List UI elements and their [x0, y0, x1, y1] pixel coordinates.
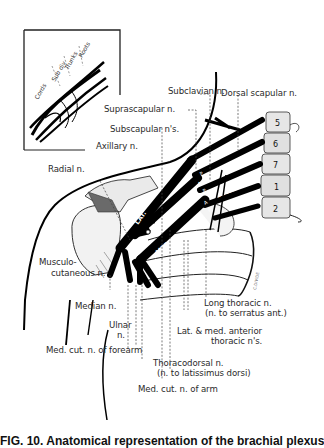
- label-axillary-nerve: Axillary n.: [96, 141, 138, 151]
- division-mark: A: [194, 162, 200, 169]
- inset-label-roots: Roots: [77, 41, 91, 59]
- label-med-cut-forearm: Med. cut. n. of forearm: [46, 345, 142, 355]
- label-long-thoracic-line2: (n. to serratus ant.): [205, 308, 287, 318]
- label-long-thoracic-line1: Long thoracic n.: [204, 298, 272, 308]
- vertebra-label: 5: [275, 119, 280, 128]
- label-thoracodorsal-line2: (n. to latissimus dorsi): [157, 368, 250, 378]
- label-ulnar-line1: Ulnar: [109, 320, 131, 330]
- label-thoracodorsal-line1: Thoracodorsal n.: [153, 358, 223, 368]
- label-suprascapular-nerve: Suprascapular n.: [104, 104, 175, 114]
- rib-mark: C.DIVIDE: [252, 271, 260, 290]
- forearm-line-2: [103, 330, 108, 420]
- label-subclavian-nerve: Subclavian n.: [168, 86, 225, 96]
- vertebra-label: 1: [274, 183, 279, 192]
- inset-label-trunks: Trunks: [62, 50, 78, 71]
- plexus-cords: LAT. POST. MED. A P A P A P: [110, 160, 226, 285]
- label-dorsal-scapular-nerve: Dorsal scapular n.: [221, 88, 297, 98]
- vertebral-column: 5 6 7 1 2: [261, 112, 301, 222]
- vertebra-label: 7: [273, 161, 278, 170]
- vertebra-label: 2: [273, 205, 278, 214]
- label-median-nerve: Median n.: [75, 301, 116, 311]
- label-ulnar-line2: n.: [117, 330, 125, 340]
- label-musculocutaneous-line1: Musculo-: [39, 257, 77, 267]
- inset-diagram: Cords Sub div Trunks Roots: [24, 30, 120, 150]
- label-ant-thoracic-line1: Lat. & med. anterior: [177, 326, 262, 336]
- label-subscapular-nerves: Subscapular n's.: [110, 124, 179, 134]
- vertebra-label: 6: [273, 140, 278, 149]
- label-med-cut-arm: Med. cut. n. of arm: [138, 384, 218, 394]
- arm-outline: [66, 300, 70, 345]
- label-musculocutaneous-line2: cutaneous n.: [51, 268, 105, 278]
- inset-label-cords: Cords: [33, 82, 48, 100]
- figure-caption: FIG. 10. Anatomical representation of th…: [0, 434, 324, 448]
- division-mark: A: [197, 180, 203, 187]
- label-ant-thoracic-line2: thoracic n's.: [211, 336, 262, 346]
- label-radial-nerve: Radial n.: [48, 164, 85, 174]
